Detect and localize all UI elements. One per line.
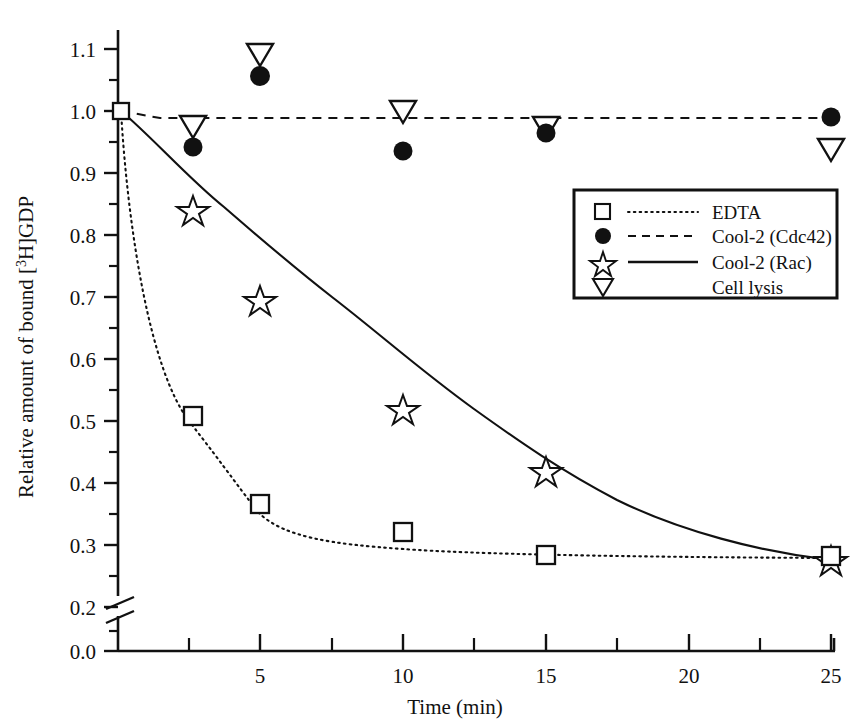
data-point-edta (537, 546, 555, 564)
y-axis-title-pre: Relative amount of bound [ (14, 267, 38, 498)
y-tick-label: 0.6 (70, 348, 96, 372)
x-axis-title: Time (min) (407, 695, 502, 719)
x-tick-label: 25 (821, 664, 842, 688)
data-point-edta (251, 495, 269, 513)
x-tick-label: 15 (536, 664, 557, 688)
legend-label: Cool-2 (Cdc42) (712, 226, 832, 248)
y-tick-label: 0.8 (70, 224, 96, 248)
x-tick-label: 5 (255, 664, 266, 688)
legend-label: Cool-2 (Rac) (712, 252, 812, 274)
data-point-edta (184, 407, 202, 425)
chart-figure: 1.1 1.0 0.9 0.8 0.7 0.6 0.5 0.4 0.3 0.2 … (0, 0, 864, 727)
x-tick-label: 10 (393, 664, 414, 688)
legend-marker-open-square-icon (595, 204, 610, 219)
legend-label: EDTA (712, 202, 761, 223)
y-axis-title: Relative amount of bound [3H]GDP (14, 196, 38, 498)
y-tick-label: 0.4 (70, 472, 97, 496)
y-tick-label: 0.9 (70, 162, 96, 186)
legend: EDTA Cool-2 (Cdc42) Cool-2 (Rac) Cell ly… (574, 190, 837, 298)
chart-svg: 1.1 1.0 0.9 0.8 0.7 0.6 0.5 0.4 0.3 0.2 … (0, 0, 864, 727)
data-point-edta-origin (113, 103, 129, 119)
data-point-edta (394, 523, 412, 541)
y-tick-label: 0.3 (70, 534, 96, 558)
data-point-cool2-cdc42 (250, 66, 270, 86)
data-point-cool2-cdc42 (537, 124, 556, 143)
y-axis-title-superscript: 3 (14, 260, 29, 267)
svg-text:Relative amount of bound [3H]: Relative amount of bound [3H]GDP (14, 196, 38, 498)
y-axis-title-post: H]GDP (14, 196, 38, 260)
y-tick-label: 1.1 (70, 38, 96, 62)
y-tick-label: 0.2 (70, 596, 96, 620)
y-tick-label-zero: 0.0 (70, 640, 96, 664)
x-tick-label: 20 (679, 664, 700, 688)
y-tick-label: 1.0 (70, 100, 96, 124)
data-point-cool2-cdc42 (394, 142, 413, 161)
y-tick-label: 0.7 (70, 286, 96, 310)
data-point-edta (822, 547, 840, 565)
y-tick-label: 0.5 (70, 410, 96, 434)
legend-marker-filled-circle-icon (595, 228, 611, 244)
data-point-cool2-cdc42 (822, 108, 841, 127)
legend-label: Cell lysis (712, 277, 783, 298)
data-point-cool2-cdc42 (184, 138, 203, 157)
